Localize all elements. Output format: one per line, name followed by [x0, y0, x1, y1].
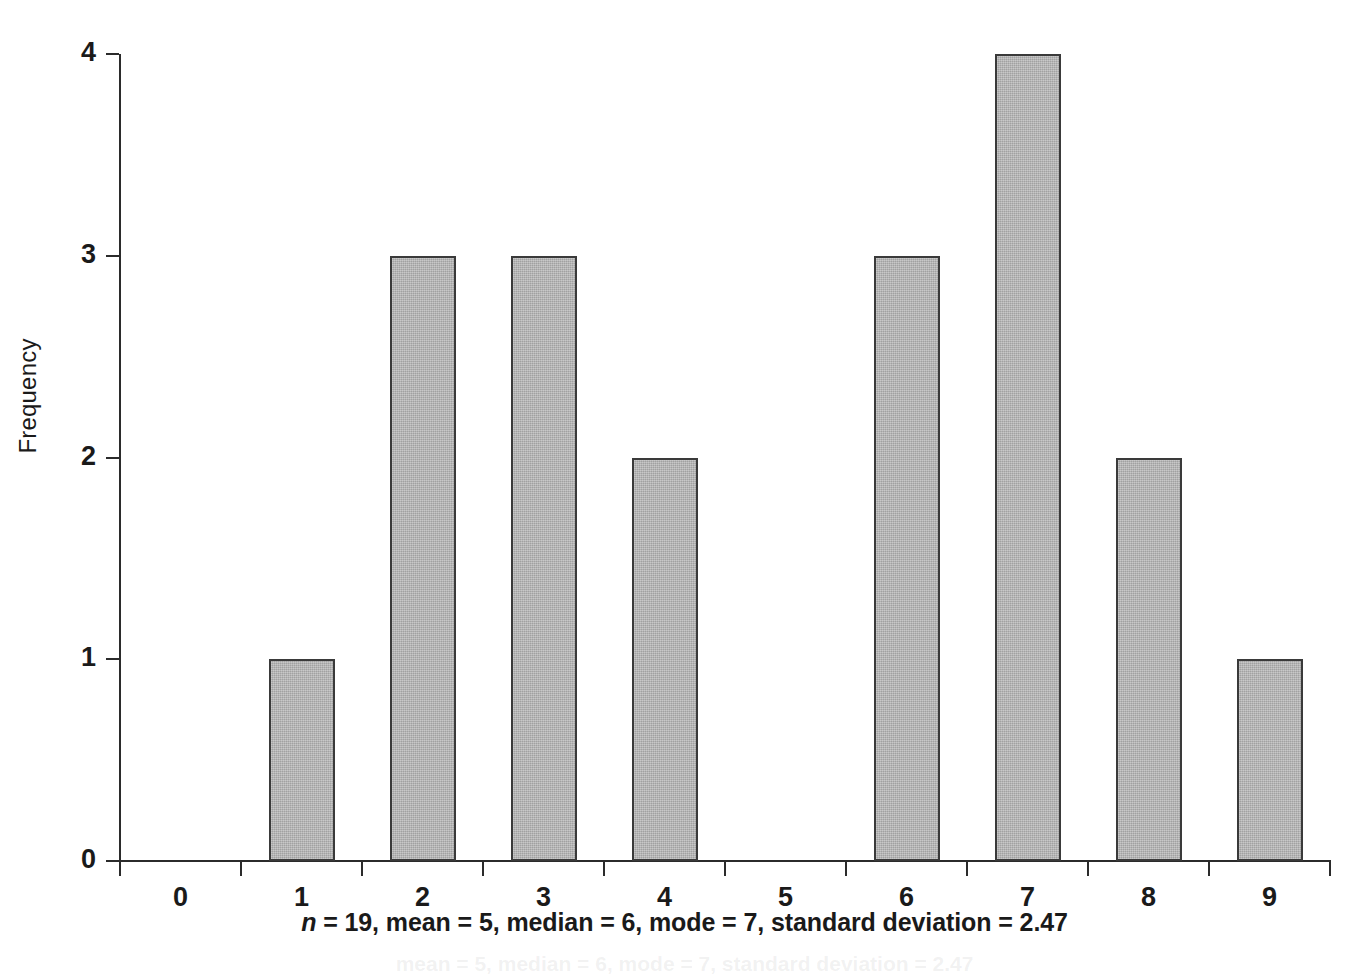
x-axis-tick-mark — [845, 862, 847, 876]
x-axis-tick-label: 5 — [725, 884, 846, 911]
x-axis-tick-label: 1 — [241, 884, 362, 911]
x-axis-tick-mark — [1329, 862, 1331, 876]
y-axis-tick-mark — [106, 255, 119, 257]
y-axis-tick-label: 0 — [56, 846, 96, 873]
y-axis-title: Frequency — [14, 286, 42, 506]
x-axis-tick-mark — [1208, 862, 1210, 876]
bar-4 — [632, 458, 698, 862]
x-axis-tick-label: 0 — [120, 884, 241, 911]
y-axis-tick-label: 1 — [56, 644, 96, 671]
chart-caption: n = 19, mean = 5, median = 6, mode = 7, … — [0, 908, 1369, 937]
x-axis-tick-label: 8 — [1088, 884, 1209, 911]
bar-1 — [269, 659, 335, 861]
caption-n-symbol: n — [301, 908, 316, 936]
x-axis-tick-mark — [603, 862, 605, 876]
x-axis-tick-label: 6 — [846, 884, 967, 911]
x-axis-tick-label: 2 — [362, 884, 483, 911]
x-axis-tick-mark — [966, 862, 968, 876]
x-axis-tick-label: 9 — [1209, 884, 1330, 911]
frequency-bar-chart: Frequency 01234 0123456789 n = 19, mean … — [0, 0, 1369, 977]
y-axis-tick-label: 3 — [56, 241, 96, 268]
caption-statistics-text: = 19, mean = 5, median = 6, mode = 7, st… — [316, 908, 1068, 936]
x-axis-tick-mark — [240, 862, 242, 876]
bar-9 — [1237, 659, 1303, 861]
bar-6 — [874, 256, 940, 861]
x-axis-tick-mark — [1087, 862, 1089, 876]
page-bleed-through-text: mean = 5, median = 6, mode = 7, standard… — [0, 952, 1369, 976]
y-axis-tick-mark — [106, 860, 119, 862]
x-axis-tick-mark — [119, 862, 121, 876]
x-axis-tick-label: 3 — [483, 884, 604, 911]
y-axis-tick-mark — [106, 658, 119, 660]
bar-7 — [995, 54, 1061, 861]
x-axis-tick-mark — [482, 862, 484, 876]
bar-2 — [390, 256, 456, 861]
y-axis-tick-label: 2 — [56, 443, 96, 470]
x-axis-tick-mark — [724, 862, 726, 876]
x-axis-tick-mark — [361, 862, 363, 876]
y-axis-tick-mark — [106, 53, 119, 55]
bar-3 — [511, 256, 577, 861]
y-axis-tick-mark — [106, 457, 119, 459]
bar-8 — [1116, 458, 1182, 862]
x-axis-tick-label: 7 — [967, 884, 1088, 911]
y-axis-tick-label: 4 — [56, 39, 96, 66]
plot-area — [120, 54, 1330, 861]
x-axis-tick-label: 4 — [604, 884, 725, 911]
